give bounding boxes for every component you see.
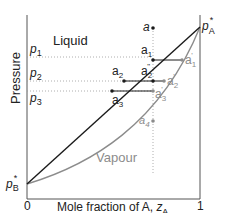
- p2-label: p2: [29, 66, 42, 82]
- region-liquid-label: Liquid: [53, 33, 88, 48]
- label-a: a: [143, 20, 150, 34]
- point-a4: [151, 119, 155, 123]
- x-tick-0: 0: [24, 199, 31, 213]
- x-axis-label: Mole fraction of A, zA: [57, 200, 168, 213]
- y-axis-label: Pressure: [8, 52, 23, 104]
- p1-label: p1: [29, 42, 42, 58]
- label-a1: a1: [141, 43, 153, 59]
- x-tick-1: 1: [197, 199, 204, 213]
- label-a2: a2: [112, 64, 124, 80]
- pB-star-label: pB*: [5, 173, 19, 193]
- label-a2p: a2': [167, 72, 179, 90]
- region-vapour-label: Vapour: [96, 150, 138, 165]
- label-a2pp: a2": [141, 62, 153, 80]
- label-a3p: a3': [155, 85, 167, 103]
- point-a1p: [180, 58, 184, 62]
- point-a: [151, 26, 155, 30]
- label-a3: a3: [112, 93, 124, 109]
- phase-diagram: Pressure Liquid Vapour p1 p2 p3 pA* pB* …: [0, 0, 226, 213]
- pA-star-label: pA*: [201, 15, 215, 36]
- point-a2p: [162, 79, 166, 83]
- label-a4: a4: [139, 114, 150, 129]
- label-a1p: a1': [185, 51, 197, 69]
- p3-label: p3: [29, 91, 42, 107]
